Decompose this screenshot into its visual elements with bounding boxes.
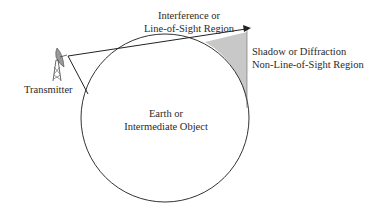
los-region-label-line1: Interference or xyxy=(118,10,260,23)
object-label: Earth or Intermediate Object xyxy=(110,108,222,133)
shadow-region-label: Shadow or Diffraction Non-Line-of-Sight … xyxy=(252,46,364,71)
transmitter-label: Transmitter xyxy=(24,84,73,97)
transmitter-tower-icon xyxy=(53,48,67,81)
object-label-line2: Intermediate Object xyxy=(110,121,222,134)
los-region-label-line2: Line-of-Sight Region xyxy=(118,23,260,36)
object-label-line1: Earth or xyxy=(110,108,222,121)
los-region-label: Interference or Line-of-Sight Region xyxy=(118,10,260,35)
shadow-region xyxy=(205,32,247,108)
shadow-region-label-line2: Non-Line-of-Sight Region xyxy=(252,59,364,72)
shadow-region-label-line1: Shadow or Diffraction xyxy=(252,46,364,59)
